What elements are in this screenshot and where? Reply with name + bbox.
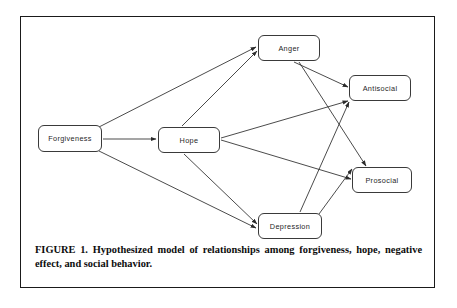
node-anger[interactable]: Anger: [258, 35, 320, 61]
node-forgiveness-label: Forgiveness: [48, 134, 92, 143]
node-hope-label: Hope: [180, 136, 199, 145]
figure-caption-line-1: FIGURE 1. Hypothesized model of relation…: [35, 244, 380, 255]
node-depression-label: Depression: [270, 222, 310, 231]
node-anger-label: Anger: [278, 44, 299, 53]
node-forgiveness[interactable]: Forgiveness: [38, 125, 102, 152]
node-hope[interactable]: Hope: [158, 127, 220, 153]
node-antisocial[interactable]: Antisocial: [349, 75, 411, 101]
node-prosocial[interactable]: Prosocial: [352, 167, 412, 193]
node-antisocial-label: Antisocial: [363, 84, 398, 93]
node-depression[interactable]: Depression: [258, 213, 322, 239]
figure-container: Forgiveness Hope Anger Antisocial Prosoc…: [0, 0, 457, 308]
figure-caption: FIGURE 1. Hypothesized model of relation…: [35, 243, 422, 270]
node-prosocial-label: Prosocial: [365, 176, 398, 185]
